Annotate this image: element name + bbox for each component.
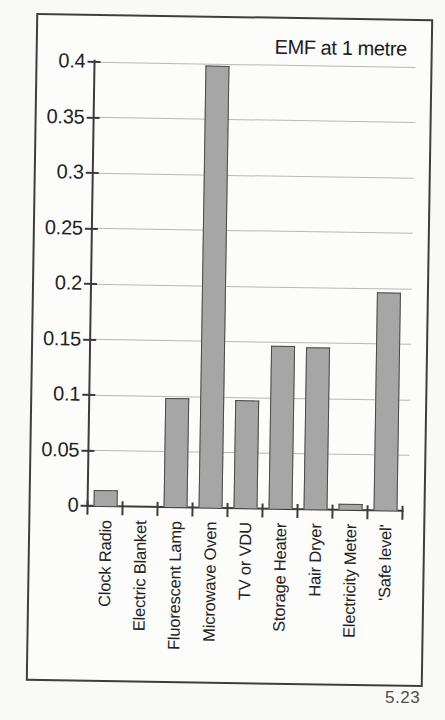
x-axis-tick — [121, 501, 123, 515]
x-axis-tick — [86, 501, 88, 515]
x-axis-tick — [261, 504, 263, 518]
bar — [373, 292, 400, 510]
grid-line — [93, 172, 414, 178]
y-tick-label: 0.4 — [39, 49, 85, 72]
grid-line — [94, 117, 415, 123]
x-axis-tick — [156, 502, 158, 516]
x-tick-label: Hair Dryer — [303, 523, 325, 663]
plot-area: 00.050.10.150.20.250.30.350.4Clock Radio… — [28, 15, 431, 685]
y-tick-label: 0.3 — [38, 160, 84, 183]
x-axis-tick — [366, 505, 368, 519]
x-tick-label: Fluorescent Lamp — [163, 521, 185, 661]
bar — [338, 504, 362, 510]
grid-line — [90, 339, 411, 345]
chart-frame: EMF at 1 metre 00.050.10.150.20.250.30.3… — [26, 13, 433, 687]
bar — [303, 347, 330, 509]
x-tick-label: Electric Blanket — [128, 520, 150, 660]
y-tick-label: 0.05 — [33, 437, 79, 460]
y-tick-label: 0.35 — [38, 104, 84, 127]
grid-line — [91, 283, 412, 289]
y-tick-label: 0.2 — [36, 271, 82, 294]
grid-line — [92, 228, 413, 234]
x-tick-label: TV or VDU — [233, 522, 255, 662]
bar — [268, 346, 295, 509]
bar — [233, 400, 259, 508]
figure-number: 5.23 — [385, 688, 420, 708]
x-axis-tick — [191, 502, 193, 516]
bar — [163, 398, 189, 507]
x-axis-tick — [296, 504, 298, 518]
y-tick-label: 0.1 — [34, 382, 80, 405]
x-tick-label: Electricity Meter — [338, 524, 360, 664]
x-tick-label: 'Safe level' — [373, 524, 395, 664]
x-axis-tick — [401, 506, 403, 520]
x-tick-label: Microwave Oven — [198, 522, 220, 662]
y-tick-label: 0.25 — [37, 215, 83, 238]
y-tick-label: 0 — [32, 493, 78, 516]
x-axis-tick — [226, 503, 228, 517]
x-tick-label: Storage Heater — [268, 523, 290, 663]
bar — [93, 490, 117, 506]
bar — [198, 66, 229, 508]
grid-line — [95, 61, 416, 67]
x-axis-tick — [331, 505, 333, 519]
y-tick-label: 0.15 — [35, 326, 81, 349]
x-tick-label: Clock Radio — [93, 520, 115, 660]
